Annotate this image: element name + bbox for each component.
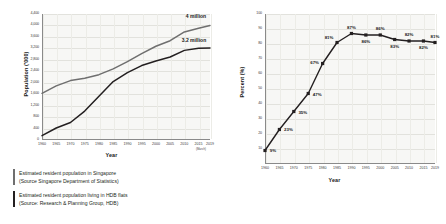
left-x-axis-title: Year	[106, 152, 118, 158]
x-tick-label: 2015	[419, 167, 427, 171]
figure-container: Population ('000) 4,4004,0003,6003,2002,…	[0, 0, 446, 224]
data-point-marker	[278, 128, 281, 131]
y-tick-label: 100	[256, 12, 262, 16]
data-point-marker	[393, 38, 396, 41]
data-point-marker	[307, 92, 310, 95]
y-tick-label: 400	[33, 127, 39, 131]
x-tick-label: 1985	[109, 143, 117, 147]
legend-source-total-population: (Source Singapore Department of Statisti…	[19, 177, 119, 185]
data-point-label: 86%	[376, 27, 385, 31]
data-point-label: 87%	[347, 25, 356, 29]
y-tick-label: 70	[258, 57, 262, 61]
data-point-marker	[292, 110, 295, 113]
vertical-gridline	[211, 14, 212, 139]
legend-label-total-population: Estimated resident population in Singapo…	[19, 169, 119, 177]
series-annotation-total: 4 million	[186, 14, 206, 19]
y-tick-label: 30	[258, 117, 262, 121]
x-tick-label: 2019	[206, 143, 214, 147]
data-point-label: 47%	[313, 92, 322, 96]
y-tick-label: 800	[33, 115, 39, 119]
x-tick-label: 2005	[391, 167, 399, 171]
data-point-label: 81%	[431, 34, 440, 38]
x-tick-label: 2005	[166, 143, 174, 147]
data-point-marker	[263, 149, 266, 152]
data-point-marker	[407, 39, 410, 42]
data-point-marker	[422, 39, 425, 42]
right-plot-area: 100908070605040302010 196019651970197519…	[265, 14, 435, 164]
y-tick-label: 4,400	[31, 12, 40, 16]
x-tick-label: 1975	[304, 167, 312, 171]
y-tick-label: 10	[258, 147, 262, 151]
right-y-axis-title: Percent (%)	[239, 67, 245, 98]
data-point-label: 86%	[361, 40, 370, 44]
legend-source-hdb-population: (Source: Research & Planning Group, HDB)	[19, 199, 127, 207]
y-tick-label: 1,200	[31, 104, 40, 108]
x-tick-label: 1965	[52, 143, 60, 147]
data-point-label: 81%	[325, 35, 334, 39]
y-tick-label: 1,600	[31, 92, 40, 96]
left-plot-area: 4,4004,0003,6003,2002,8002,4002,0001,600…	[42, 14, 210, 140]
left-series-lines	[42, 14, 210, 140]
x-tick-label: 2010	[405, 167, 413, 171]
x-tick-label: 1990	[123, 143, 131, 147]
legend-label-hdb-population: Estimated resident population living in …	[19, 191, 127, 199]
y-tick-label: 80	[258, 42, 262, 46]
data-point-label: 83%	[390, 44, 399, 48]
x-tick-label: 1960	[261, 167, 269, 171]
y-tick-label: 4,000	[31, 24, 40, 28]
y-tick-label: 50	[258, 87, 262, 91]
x-tick-label: 2000	[152, 143, 160, 147]
x-tick-label: 1995	[362, 167, 370, 171]
data-point-label: 82%	[405, 33, 414, 37]
x-tick-label: 1990	[347, 167, 355, 171]
data-point-label: 67%	[310, 60, 319, 64]
population-chart-panel: Population ('000) 4,4004,0003,6003,2002,…	[0, 0, 223, 224]
x-tick-label: 2019	[431, 167, 439, 171]
x-tick-label: 1980	[319, 167, 327, 171]
x-tick-label: 1965	[275, 167, 283, 171]
x-tick-label: 1985	[333, 167, 341, 171]
series-annotation-hdb: 3.2 million	[182, 38, 206, 43]
data-point-label: 35%	[298, 110, 307, 114]
percentage-chart-panel: Percent (%) 100908070605040302010 196019…	[223, 0, 446, 224]
data-point-label: 9%	[270, 148, 276, 152]
legend-swatch-hdb-population	[13, 191, 15, 207]
x-tick-label: 1995	[138, 143, 146, 147]
y-tick-label: 90	[258, 27, 262, 31]
series-line	[265, 34, 435, 151]
y-tick-label: 20	[258, 132, 262, 136]
series-line	[42, 48, 210, 136]
y-tick-label: 2,800	[31, 58, 40, 62]
legend-item-total-population: Estimated resident population in Singapo…	[13, 169, 119, 185]
y-tick-label: 3,200	[31, 47, 40, 51]
x-tick-label: 2010	[180, 143, 188, 147]
x-tick-label: 1970	[290, 167, 298, 171]
y-tick-label: 2,400	[31, 69, 40, 73]
data-point-label: 82%	[419, 46, 428, 50]
x-tick-label: 1980	[95, 143, 103, 147]
data-point-marker	[379, 33, 382, 36]
data-point-marker	[350, 32, 353, 35]
x-tick-label: 1975	[81, 143, 89, 147]
x-tick-label: 1970	[66, 143, 74, 147]
data-point-marker	[364, 33, 367, 36]
data-point-marker	[335, 41, 338, 44]
legend-swatch-total-population	[13, 169, 15, 185]
x-tick-label: 2000	[376, 167, 384, 171]
x-tick-label: 1960	[38, 143, 46, 147]
y-tick-label: 60	[258, 72, 262, 76]
y-tick-label: 3,600	[31, 35, 40, 39]
right-x-axis-title: Year	[329, 177, 341, 183]
left-march-note: (March)	[196, 147, 206, 151]
y-tick-label: 2,000	[31, 81, 40, 85]
data-point-marker	[433, 41, 436, 44]
data-point-marker	[321, 62, 324, 65]
y-tick-label: 40	[258, 102, 262, 106]
data-point-label: 23%	[284, 127, 293, 131]
legend-item-hdb-population: Estimated resident population living in …	[13, 191, 127, 207]
x-tick-label: 2015	[195, 143, 203, 147]
left-y-axis-title: Population ('000)	[23, 52, 29, 97]
